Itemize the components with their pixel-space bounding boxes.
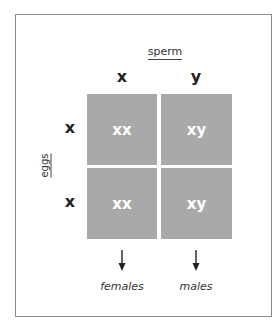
eggs-axis-label: eggs	[39, 146, 50, 186]
cell-r2-c1: xx	[87, 168, 157, 239]
diagram-frame	[15, 14, 272, 317]
column-header-y: y	[161, 67, 231, 86]
outcome-males: males	[156, 280, 236, 293]
column-header-x: x	[87, 67, 157, 86]
cell-r1-c1: xx	[87, 94, 157, 165]
arrow-down-icon	[191, 250, 201, 272]
outcome-females: females	[82, 280, 162, 293]
sperm-axis-label: sperm	[130, 45, 200, 58]
cell-r2-c2: xy	[161, 168, 232, 239]
sperm-label-text: sperm	[148, 45, 183, 60]
row-header-1: x	[60, 118, 80, 137]
row-header-2: x	[60, 192, 80, 211]
arrow-down-icon	[117, 250, 127, 272]
cell-r1-c2: xy	[161, 94, 232, 165]
eggs-label-text: eggs	[39, 153, 52, 177]
